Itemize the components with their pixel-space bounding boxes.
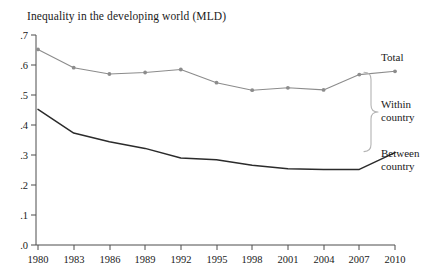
annotation-total-text: Total [381, 51, 403, 63]
annotation-between-line1: Between [381, 147, 419, 160]
x-tick-label-1983: 1983 [64, 254, 85, 265]
x-tick-label-1992: 1992 [171, 254, 192, 265]
data-point-marker [179, 68, 183, 72]
annotation-between-line2: country [381, 160, 419, 173]
series-total [36, 48, 397, 93]
y-tick-label-3: .3 [20, 150, 28, 161]
x-tick-label-1980: 1980 [28, 254, 49, 265]
x-tick-label-1998: 1998 [242, 254, 263, 265]
x-tick-label-2004: 2004 [314, 254, 336, 265]
y-tick-label-5: .5 [20, 90, 28, 101]
y-tick-label-6: .6 [20, 60, 28, 71]
data-point-marker [143, 71, 147, 75]
y-tick-label-2: .2 [20, 180, 28, 191]
y-tick-label-0: .0 [20, 240, 28, 251]
annotation-between-country: Between country [381, 147, 419, 173]
annotation-within-country: Within country [381, 98, 415, 124]
series-line-between-country [38, 109, 395, 169]
data-point-marker [108, 72, 112, 76]
data-point-marker [215, 81, 219, 85]
x-tick-label-2010: 2010 [385, 254, 406, 265]
data-point-marker [286, 86, 290, 90]
within-country-brace [364, 72, 378, 151]
x-tick-label-2001: 2001 [278, 254, 299, 265]
data-point-marker [250, 88, 254, 92]
y-tick-label-7: .7 [20, 30, 28, 41]
data-point-marker [357, 73, 361, 77]
x-tick-label-1989: 1989 [135, 254, 156, 265]
y-tick-label-4: .4 [20, 120, 29, 131]
x-tick-label-1986: 1986 [100, 254, 121, 265]
data-point-marker [322, 88, 326, 92]
x-axis-ticks [38, 245, 395, 250]
data-point-marker [393, 69, 397, 73]
y-axis-ticks [31, 35, 36, 245]
x-tick-label-2007: 2007 [349, 254, 370, 265]
y-tick-label-1: .1 [20, 210, 28, 221]
x-axis: 1980 1983 1986 1989 1992 1995 1998 2001 … [28, 245, 406, 265]
line-chart-plot: .7 .6 .5 .4 .3 .2 .1 .0 [0, 0, 437, 277]
annotation-total: Total [381, 51, 403, 64]
data-point-marker [72, 66, 76, 70]
annotation-within-line1: Within [381, 98, 415, 111]
chart-figure: Inequality in the developing world (MLD)… [0, 0, 437, 277]
y-axis: .7 .6 .5 .4 .3 .2 .1 .0 [20, 30, 36, 251]
annotation-within-line2: country [381, 111, 415, 124]
data-point-marker [36, 48, 40, 52]
series-between-country [38, 109, 395, 169]
x-tick-label-1995: 1995 [207, 254, 228, 265]
